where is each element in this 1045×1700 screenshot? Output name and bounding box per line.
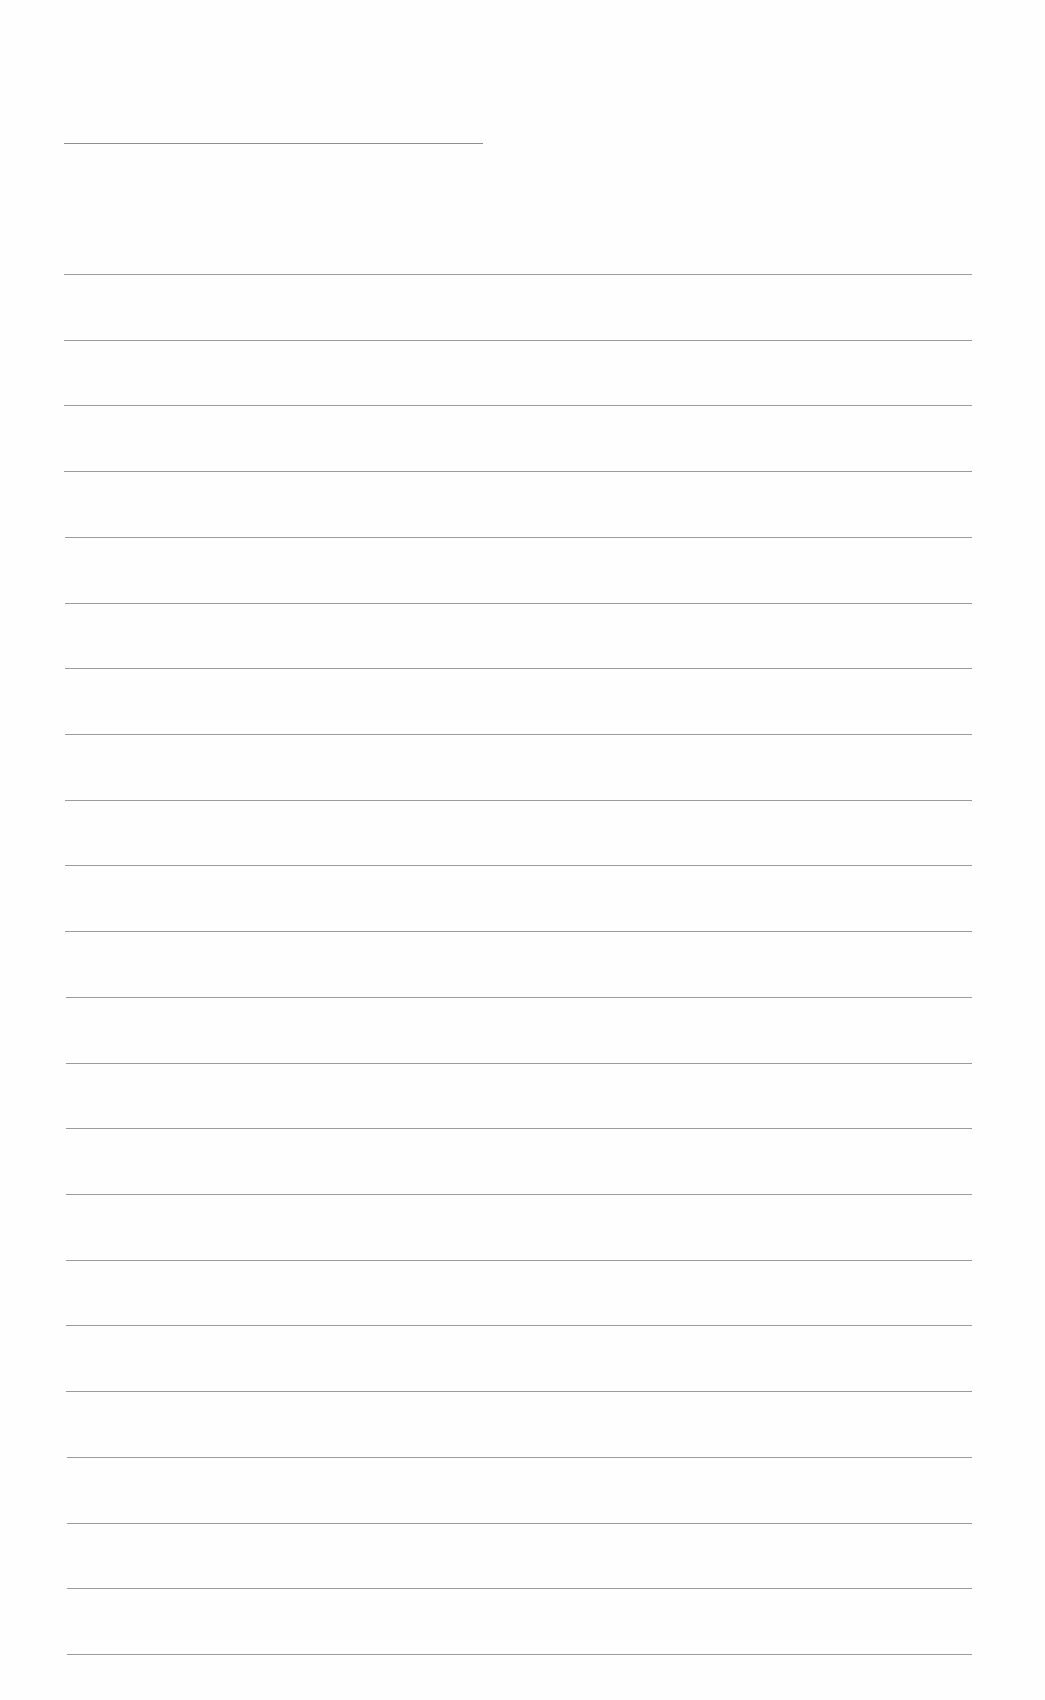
- ruled-line: [67, 1523, 972, 1524]
- ruled-line: [66, 1128, 972, 1129]
- ruled-line: [67, 1588, 972, 1589]
- ruled-line: [66, 997, 972, 998]
- ruled-line: [65, 668, 972, 669]
- ruled-line: [64, 471, 972, 472]
- ruled-line: [64, 274, 972, 275]
- ruled-line: [64, 340, 972, 341]
- ruled-line: [65, 865, 972, 866]
- ruled-line: [65, 800, 972, 801]
- ruled-line: [67, 1457, 972, 1458]
- ruled-line: [64, 405, 972, 406]
- ruled-line: [65, 734, 972, 735]
- ruled-line: [66, 1325, 972, 1326]
- ruled-line: [65, 603, 972, 604]
- ruled-line: [66, 1260, 972, 1261]
- ruled-lines-container: [0, 0, 1045, 1700]
- lined-paper-page: [0, 0, 1045, 1700]
- ruled-line: [65, 931, 972, 932]
- ruled-line: [66, 1063, 972, 1064]
- ruled-line: [66, 1194, 972, 1195]
- ruled-line: [65, 537, 972, 538]
- ruled-line: [67, 1654, 972, 1655]
- ruled-line: [66, 1391, 972, 1392]
